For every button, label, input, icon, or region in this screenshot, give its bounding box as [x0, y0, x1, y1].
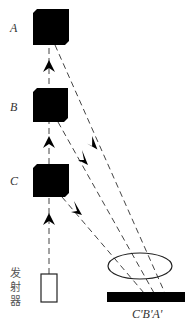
ray-from-A	[55, 45, 168, 300]
ray-from-B	[58, 122, 158, 300]
image-label: C'B'A'	[132, 307, 163, 321]
emitter-label-2: 射	[10, 280, 21, 294]
emitter-label-1: 发	[10, 266, 21, 280]
arrow-down-icon	[71, 201, 82, 215]
object-A	[33, 9, 69, 45]
label-A: A	[9, 21, 18, 35]
lens	[108, 253, 172, 279]
label-C: C	[10, 174, 19, 188]
object-C	[33, 164, 69, 197]
object-B	[33, 88, 68, 122]
arrow-down-icon	[78, 150, 88, 165]
arrow-up-icon	[43, 136, 55, 148]
image-plate	[107, 292, 185, 302]
emitter-label-3: 器	[10, 295, 21, 308]
emitter	[41, 274, 57, 302]
label-B: B	[10, 100, 18, 114]
diagram-canvas: A B C 发 射 器 C'B'A'	[0, 0, 194, 328]
